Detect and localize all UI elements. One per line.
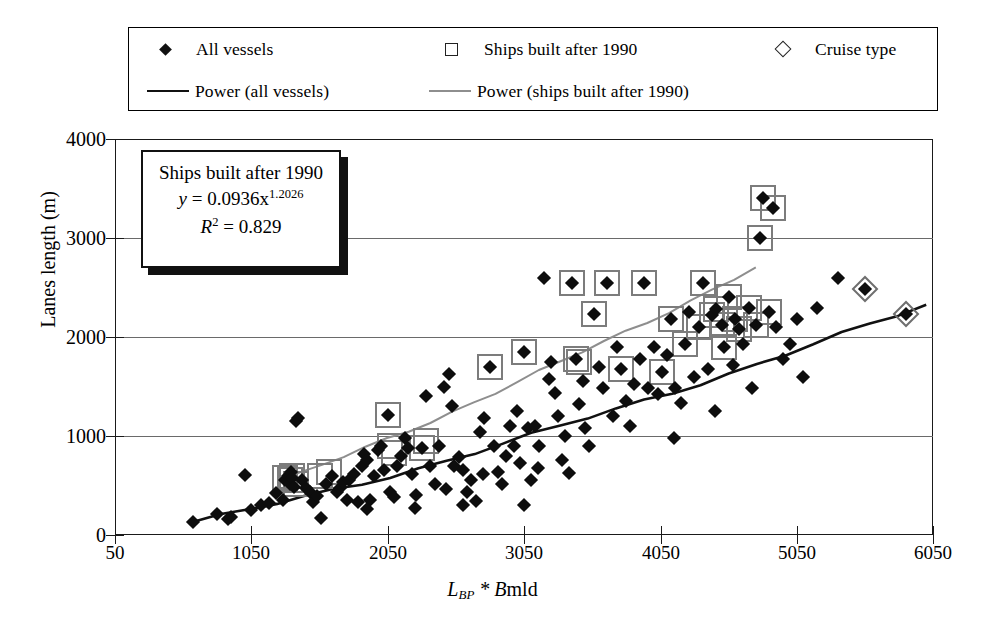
legend-item-ships-after-1990: Ships built after 1990 xyxy=(445,28,637,70)
equation-callout: Ships built after 1990 y = 0.0936x1.2026… xyxy=(141,150,341,268)
legend-row-trendlines: Power (all vessels) Power (ships built a… xyxy=(129,70,937,112)
x-tickmark-6050 xyxy=(933,526,934,544)
x-tick-3050: 3050 xyxy=(505,542,543,564)
y-tick-1000: 1000 xyxy=(46,426,106,446)
equation-body: = 0.0936x xyxy=(187,188,269,209)
chart-legend: All vessels Ships built after 1990 Cruis… xyxy=(128,27,938,111)
x-tick-1050: 1050 xyxy=(232,542,270,564)
equation-exponent: 1.2026 xyxy=(269,187,303,201)
x-axis-label-main: L xyxy=(447,578,458,600)
legend-label-ships-after-1990: Ships built after 1990 xyxy=(484,39,637,60)
legend-item-power-all: Power (all vessels) xyxy=(147,70,329,112)
x-axis-label-tail: mld xyxy=(507,578,538,600)
y-tick-0: 0 xyxy=(46,525,106,545)
legend-item-all-vessels: All vessels xyxy=(161,28,273,70)
r2-value: = 0.829 xyxy=(218,216,281,237)
x-axis-label-rest: * B xyxy=(474,578,506,600)
equation-formula: y = 0.0936x1.2026 xyxy=(143,185,339,213)
black-line-icon xyxy=(147,90,189,92)
x-tick-5050: 5050 xyxy=(778,542,816,564)
y-tick-4000: 4000 xyxy=(46,129,106,149)
legend-label-all-vessels: All vessels xyxy=(196,39,273,60)
legend-label-power-after-1990: Power (ships built after 1990) xyxy=(477,81,689,102)
x-tick-50: 50 xyxy=(106,542,125,564)
y-tick-2000: 2000 xyxy=(46,327,106,347)
legend-label-cruise-type: Cruise type xyxy=(815,39,896,60)
legend-item-power-after-1990: Power (ships built after 1990) xyxy=(429,70,689,112)
x-tick-2050: 2050 xyxy=(369,542,407,564)
x-tick-6050: 6050 xyxy=(914,542,952,564)
equation-y: y xyxy=(179,188,187,209)
x-axis-label: LBP * Bmld xyxy=(0,578,985,603)
legend-label-power-all: Power (all vessels) xyxy=(195,81,329,102)
trendline-ships-after-1990 xyxy=(279,267,756,482)
chart-root: All vessels Ships built after 1990 Cruis… xyxy=(0,0,985,629)
open-diamond-icon xyxy=(775,41,792,58)
filled-diamond-icon xyxy=(159,43,172,56)
equation-r2: R2 = 0.829 xyxy=(143,213,339,241)
y-tick-labels: 4000 3000 2000 1000 0 xyxy=(32,0,106,629)
x-tick-4050: 4050 xyxy=(642,542,680,564)
legend-item-cruise-type: Cruise type xyxy=(777,28,896,70)
y-tick-3000: 3000 xyxy=(46,228,106,248)
grey-line-icon xyxy=(429,90,471,92)
r2-symbol: R xyxy=(201,216,213,237)
equation-title: Ships built after 1990 xyxy=(143,161,339,185)
x-axis-label-sub: BP xyxy=(458,587,474,602)
open-square-icon xyxy=(445,43,458,56)
legend-row-markers: All vessels Ships built after 1990 Cruis… xyxy=(129,28,937,70)
